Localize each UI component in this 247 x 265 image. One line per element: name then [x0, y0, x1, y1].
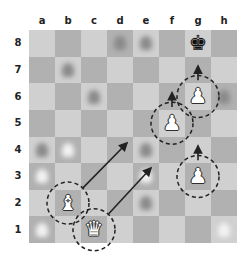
square-e7	[133, 57, 159, 84]
square-g7	[185, 57, 211, 84]
white-pawn-icon: ♟	[185, 163, 211, 190]
square-g5	[185, 110, 211, 137]
square-d2	[107, 190, 133, 217]
square-b6	[55, 83, 81, 110]
square-h8	[211, 30, 237, 57]
file-label-h: h	[217, 15, 231, 27]
square-f1	[159, 216, 185, 243]
square-b5	[55, 110, 81, 137]
file-label-a: a	[35, 15, 49, 27]
square-a5	[29, 110, 55, 137]
black-king-icon: ♚	[185, 30, 211, 57]
rank-label-6: 6	[11, 91, 25, 103]
square-b1	[55, 216, 81, 243]
square-c4	[81, 137, 107, 164]
square-d5	[107, 110, 133, 137]
square-h4	[211, 137, 237, 164]
square-d3	[107, 163, 133, 190]
square-f7	[159, 57, 185, 84]
square-c2	[81, 190, 107, 217]
square-a6	[29, 83, 55, 110]
square-b3	[55, 163, 81, 190]
square-a8	[29, 30, 55, 57]
rank-label-7: 7	[11, 64, 25, 76]
white-pawn-icon: ♟	[159, 110, 185, 137]
square-h3	[211, 163, 237, 190]
blurred-piece-b4	[62, 143, 74, 157]
file-label-g: g	[191, 15, 205, 27]
square-h7	[211, 57, 237, 84]
blurred-piece-e4	[140, 143, 152, 157]
square-a2	[29, 190, 55, 217]
blurred-piece-h6	[218, 90, 230, 104]
rank-label-1: 1	[11, 224, 25, 236]
square-e1	[133, 216, 159, 243]
square-e6	[133, 83, 159, 110]
square-f4	[159, 137, 185, 164]
square-a7	[29, 57, 55, 84]
square-d4	[107, 137, 133, 164]
square-d6	[107, 83, 133, 110]
blurred-piece-e3	[140, 169, 152, 183]
square-g4	[185, 137, 211, 164]
square-d7	[107, 57, 133, 84]
blurred-piece-a3	[36, 169, 48, 183]
square-e5	[133, 110, 159, 137]
rank-label-8: 8	[11, 37, 25, 49]
white-queen-icon: ♛	[81, 216, 107, 243]
blurred-piece-e2	[140, 196, 152, 210]
file-label-b: b	[61, 15, 75, 27]
square-f2	[159, 190, 185, 217]
blurred-piece-e8	[140, 36, 152, 50]
file-label-f: f	[165, 15, 179, 27]
file-label-d: d	[113, 15, 127, 27]
square-h2	[211, 190, 237, 217]
square-c3	[81, 163, 107, 190]
rank-label-5: 5	[11, 117, 25, 129]
square-g2	[185, 190, 211, 217]
white-pawn-icon: ♟	[185, 83, 211, 110]
rank-label-4: 4	[11, 144, 25, 156]
file-label-e: e	[139, 15, 153, 27]
file-label-c: c	[87, 15, 101, 27]
chess-board: ♚♟♟♟♝♛	[29, 30, 237, 243]
square-b8	[55, 30, 81, 57]
blurred-piece-h1	[218, 223, 230, 237]
blurred-piece-c6	[88, 90, 100, 104]
square-g1	[185, 216, 211, 243]
square-c7	[81, 57, 107, 84]
square-d1	[107, 216, 133, 243]
square-c8	[81, 30, 107, 57]
blurred-piece-d8	[114, 36, 126, 50]
rank-label-3: 3	[11, 170, 25, 182]
blurred-piece-a1	[36, 223, 48, 237]
blurred-piece-a4	[36, 143, 48, 157]
white-bishop-icon: ♝	[55, 190, 81, 217]
square-h5	[211, 110, 237, 137]
square-f3	[159, 163, 185, 190]
square-f6	[159, 83, 185, 110]
square-c5	[81, 110, 107, 137]
blurred-piece-b7	[62, 63, 74, 77]
rank-label-2: 2	[11, 197, 25, 209]
square-f8	[159, 30, 185, 57]
